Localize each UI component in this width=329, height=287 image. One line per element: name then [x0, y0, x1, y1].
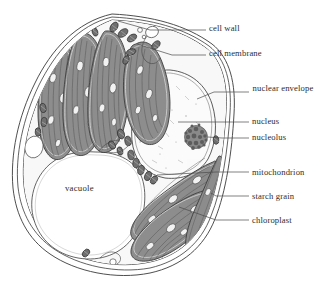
label-nucleus: nucleus: [252, 117, 279, 126]
mitochondrion: [35, 128, 41, 137]
vacuole-membrane: [32, 152, 145, 259]
vacuole: [32, 152, 145, 259]
cell-illustration: [0, 0, 329, 287]
plant-cell-diagram: cell wall cell membrane nuclear envelope…: [0, 0, 329, 287]
label-cell-wall: cell wall: [209, 24, 240, 33]
chloroplast-group-upper: [38, 31, 170, 160]
label-mitochondrion: mitochondrion: [252, 168, 305, 177]
mitochondrion: [41, 117, 48, 127]
leader-starch-grain: [211, 193, 249, 196]
vesicle: [138, 28, 143, 33]
label-nuclear-envelope: nuclear envelope: [252, 84, 314, 94]
label-cell-membrane: cell membrane: [209, 49, 262, 58]
mitochondrion: [132, 158, 139, 168]
label-chloroplast: chloroplast: [252, 216, 292, 225]
label-nucleolus: nucleolus: [252, 133, 286, 142]
label-starch-grain: starch grain: [252, 192, 294, 201]
label-vacuole: vacuole: [65, 183, 94, 193]
